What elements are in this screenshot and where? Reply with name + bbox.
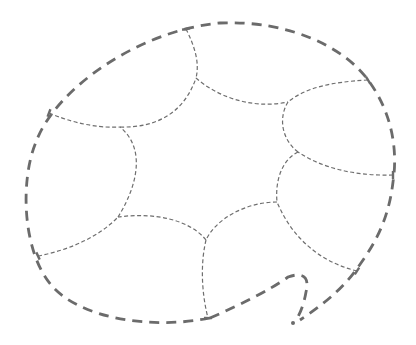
edge-right-spoke	[298, 152, 393, 175]
outer-boundary-group	[26, 23, 395, 325]
outer-boundary	[26, 23, 395, 323]
edge-bottom-spoke	[202, 240, 208, 318]
inner-edges-group	[38, 29, 393, 318]
boundary-end-dot	[291, 321, 295, 325]
edge-ring-3	[283, 102, 298, 152]
edge-lower-left-spoke	[38, 217, 118, 256]
junction-tick	[36, 252, 39, 259]
junction-ticks-group	[36, 28, 393, 318]
edge-ring-4	[277, 152, 298, 202]
outer-boundary-hook	[210, 275, 307, 320]
edge-ring-5	[206, 202, 277, 240]
junction-tick	[182, 28, 190, 29]
edge-upper-right-spoke	[288, 80, 368, 102]
edge-upper-left-spoke	[49, 113, 120, 127]
edge-ring-7	[118, 127, 136, 217]
edge-lower-right-spoke	[277, 202, 357, 271]
diagram-canvas	[0, 0, 416, 345]
edge-ring-1	[120, 78, 196, 127]
edge-ring-6	[118, 216, 206, 240]
edge-top-spoke	[186, 29, 197, 78]
edge-ring-2	[196, 78, 288, 104]
